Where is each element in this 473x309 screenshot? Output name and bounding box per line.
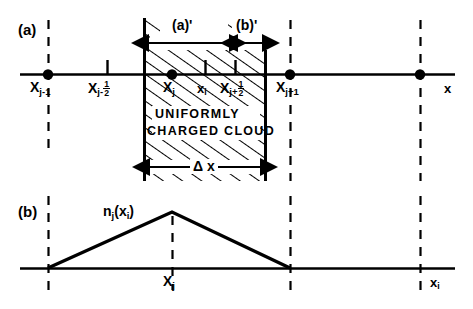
label-base: X [276, 79, 285, 95]
label-sub: i [437, 281, 439, 291]
label-fraction: 1 2 [103, 80, 110, 98]
panel-b-tag: (b) [18, 204, 37, 219]
fraction-denominator: 2 [103, 89, 110, 97]
delta-x-label: Δ x [190, 159, 218, 173]
label-base: X [163, 79, 172, 95]
node-dot-x-j-plus-1 [285, 69, 295, 79]
label-fraction: 1 2 [238, 80, 245, 98]
label-base: X [30, 79, 39, 95]
panel-a-group [20, 14, 455, 181]
axis-label-x-j-minus-half: Xj- 1 2 [88, 80, 110, 98]
label-base: n [103, 203, 112, 219]
axis-label-x-j-minus-1: Xj-1 [30, 80, 50, 96]
region-a-label-backdrop [160, 14, 228, 36]
peak-label-x-j: Xj [163, 274, 175, 290]
cloud-label-line2: CHARGED CLOUD [147, 125, 275, 138]
panel-a-axis-label: x [444, 82, 451, 95]
region-a-label: (a)' [172, 18, 192, 32]
cloud-label-line1: UNIFORMLY [155, 108, 240, 121]
label-sub: j [172, 86, 175, 97]
region-b-label: (b)' [236, 18, 257, 32]
label-sub: i [204, 87, 206, 97]
label-base: X [163, 273, 172, 289]
node-dot-x-j-minus-1 [43, 69, 53, 79]
label-base: X [220, 80, 229, 96]
label-base: X [88, 80, 97, 96]
fraction-denominator: 2 [238, 89, 245, 97]
panel-b-group [20, 196, 455, 290]
shape-function-label: nj(xi) [103, 204, 134, 220]
label-arg-base: x [119, 203, 127, 219]
label-sub: j-1 [39, 86, 50, 97]
figure-container: (a) (a)' (b)' Xj-1 Xj- 1 2 Xj xi Xj+ 1 2… [0, 0, 473, 309]
label-paren-close: ) [129, 203, 134, 219]
label-sub: j+1 [285, 86, 299, 97]
shape-function-curve [48, 212, 290, 268]
panel-a-tag: (a) [18, 22, 36, 37]
axis-label-x-j-plus-half: Xj+ 1 2 [220, 80, 244, 98]
axis-label-x-j: Xj [163, 80, 175, 96]
label-sub: j+ [229, 86, 237, 97]
label-sub: j [172, 280, 175, 291]
figure-drawing [0, 0, 473, 309]
axis-label-x-j-plus-1: Xj+1 [276, 80, 299, 96]
panel-b-axis-label: xi [430, 276, 440, 291]
axis-label-x-i: xi [197, 82, 207, 97]
node-dot-far-right [415, 69, 425, 79]
